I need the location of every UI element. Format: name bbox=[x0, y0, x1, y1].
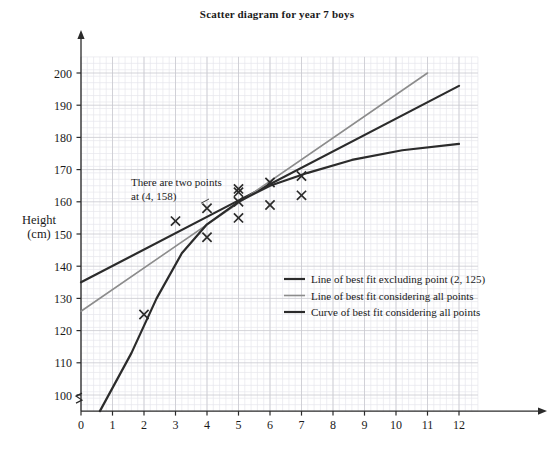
svg-text:130: 130 bbox=[54, 292, 72, 306]
svg-text:at (4, 158): at (4, 158) bbox=[131, 190, 177, 203]
svg-text:Line of best fit excluding poi: Line of best fit excluding point (2, 125… bbox=[311, 273, 485, 286]
legend: Line of best fit excluding point (2, 125… bbox=[284, 273, 485, 318]
svg-text:120: 120 bbox=[54, 324, 72, 338]
svg-text:0: 0 bbox=[78, 418, 84, 432]
svg-text:160: 160 bbox=[54, 195, 72, 209]
chart-canvas: Scatter diagram for year 7 boys Height (… bbox=[0, 0, 554, 463]
svg-text:180: 180 bbox=[54, 131, 72, 145]
svg-text:12: 12 bbox=[453, 418, 465, 432]
svg-text:6: 6 bbox=[267, 418, 273, 432]
svg-text:11: 11 bbox=[422, 418, 434, 432]
svg-text:9: 9 bbox=[362, 418, 368, 432]
svg-text:110: 110 bbox=[54, 356, 72, 370]
svg-text:8: 8 bbox=[330, 418, 336, 432]
x-tick-labels: 0123456789101112 bbox=[78, 418, 465, 432]
svg-text:140: 140 bbox=[54, 260, 72, 274]
svg-text:150: 150 bbox=[54, 228, 72, 242]
svg-text:5: 5 bbox=[236, 418, 242, 432]
svg-text:10: 10 bbox=[390, 418, 402, 432]
grid-major bbox=[81, 57, 478, 411]
svg-text:There are two points: There are two points bbox=[131, 176, 222, 188]
svg-text:200: 200 bbox=[54, 67, 72, 81]
svg-text:190: 190 bbox=[54, 99, 72, 113]
svg-text:1: 1 bbox=[110, 418, 116, 432]
svg-text:2: 2 bbox=[141, 418, 147, 432]
scatter-plot: 100110120130140150160170180190200 012345… bbox=[0, 0, 554, 463]
svg-text:100: 100 bbox=[54, 389, 72, 403]
svg-text:7: 7 bbox=[299, 418, 305, 432]
svg-text:4: 4 bbox=[204, 418, 210, 432]
svg-text:Curve of best fit considering: Curve of best fit considering all points bbox=[311, 306, 480, 318]
svg-text:Line of best fit considering a: Line of best fit considering all points bbox=[311, 290, 474, 302]
svg-text:170: 170 bbox=[54, 163, 72, 177]
svg-text:3: 3 bbox=[173, 418, 179, 432]
annotation: There are two pointsat (4, 158) bbox=[131, 176, 222, 203]
axes bbox=[76, 30, 547, 416]
y-tick-labels: 100110120130140150160170180190200 bbox=[54, 67, 72, 403]
